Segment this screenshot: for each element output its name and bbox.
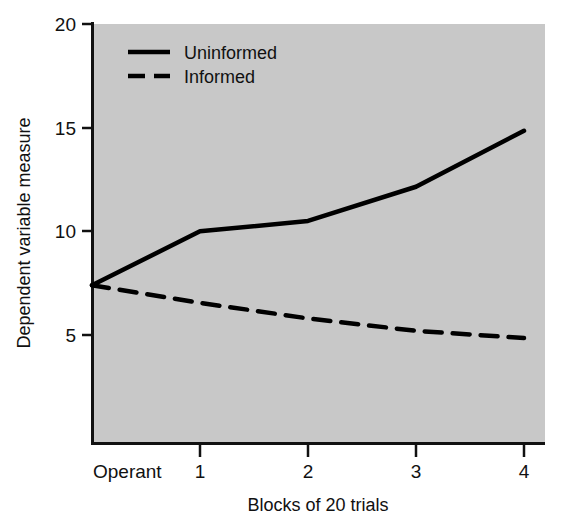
x-tick-label-1: 1 — [195, 461, 206, 482]
x-tick-label-operant: Operant — [93, 461, 162, 482]
x-axis-title: Blocks of 20 trials — [247, 495, 388, 515]
x-tick-label-3: 3 — [411, 461, 422, 482]
y-tick-label-10: 10 — [55, 221, 76, 242]
x-tick-label-2: 2 — [303, 461, 314, 482]
y-tick-label-15: 15 — [55, 118, 76, 139]
x-tick-label-4: 4 — [519, 461, 530, 482]
y-axis-title: Dependent variable measure — [14, 117, 34, 348]
y-tick-label-5: 5 — [65, 325, 76, 346]
y-axis-ticks — [82, 24, 92, 335]
x-axis-ticks — [200, 444, 524, 457]
legend-label-uninformed: Uninformed — [184, 43, 277, 63]
legend-label-informed: Informed — [184, 67, 255, 87]
chart-figure: 20 15 10 5 Operant 1 2 3 4 Blocks of 20 … — [0, 0, 563, 522]
plot-area-background — [92, 24, 545, 442]
line-chart: 20 15 10 5 Operant 1 2 3 4 Blocks of 20 … — [0, 0, 563, 522]
y-tick-label-20: 20 — [55, 14, 76, 35]
